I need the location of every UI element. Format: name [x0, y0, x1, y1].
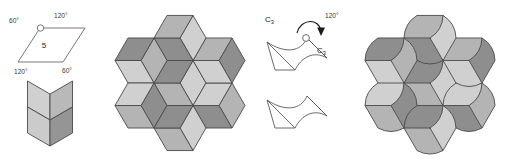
angle-label-top-right: 120° [54, 12, 68, 19]
hexagon-cell [404, 106, 456, 155]
rotation-center-marker-icon [303, 35, 310, 42]
panel-rhombus-definition: 5 60° 120° 120° 60° [0, 0, 105, 165]
curved-hexagon-group [365, 15, 495, 154]
label-c3-left: C3 [265, 15, 274, 25]
label-rotation-angle: 120° [325, 12, 339, 19]
panel-rhombic-flower-tiling [105, 0, 255, 165]
angle-label-top-left: 60° [9, 17, 19, 24]
hexagon-cube [28, 81, 73, 146]
rhombus-inner-label: 5 [42, 41, 47, 50]
rhombic-hexagon-group [115, 15, 245, 150]
rhombus-definition-svg: 5 60° 120° 120° 60° [0, 0, 105, 165]
rhombic-flower-svg [105, 0, 255, 165]
angle-label-bottom-right: 60° [62, 67, 72, 74]
rhombus-shape [18, 28, 85, 62]
panel-curved-flower-tiling [355, 0, 506, 165]
rotation-arrow-head-icon [317, 28, 325, 37]
rotation-arrow-icon [297, 21, 321, 33]
c3-rotation-svg: C3 C3 120° [255, 0, 355, 165]
label-c3-right: C3 [317, 46, 326, 56]
vertex-marker-icon [37, 25, 43, 31]
figure-canvas: 5 60° 120° 120° 60° [0, 0, 506, 165]
curved-flower-svg [355, 0, 506, 165]
derived-curved-tile [267, 96, 327, 128]
angle-label-bottom-left: 120° [14, 68, 28, 75]
panel-c3-rotation: C3 C3 120° [255, 0, 355, 165]
